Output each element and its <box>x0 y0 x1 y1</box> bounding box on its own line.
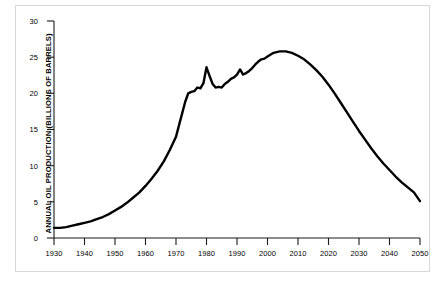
y-tick-label-5: 5 <box>14 198 38 207</box>
plot-area <box>16 6 429 271</box>
axis-lines <box>54 21 420 238</box>
y-axis-ticks <box>47 21 54 238</box>
y-tick-label-15: 15 <box>14 125 38 134</box>
x-tick-label-2050: 2050 <box>402 249 438 258</box>
y-tick-label-25: 25 <box>14 53 38 62</box>
oil-production-curve <box>54 51 420 227</box>
y-tick-label-0: 0 <box>14 234 38 243</box>
y-tick-label-20: 20 <box>14 89 38 98</box>
y-tick-label-30: 30 <box>14 17 38 26</box>
chart-frame: ANNUAL OIL PRODUCTION (BILLIONS OF BARRE… <box>15 5 430 272</box>
chart-figure: ANNUAL OIL PRODUCTION (BILLIONS OF BARRE… <box>0 0 444 284</box>
y-tick-label-10: 10 <box>14 162 38 171</box>
x-axis-ticks <box>54 238 420 245</box>
